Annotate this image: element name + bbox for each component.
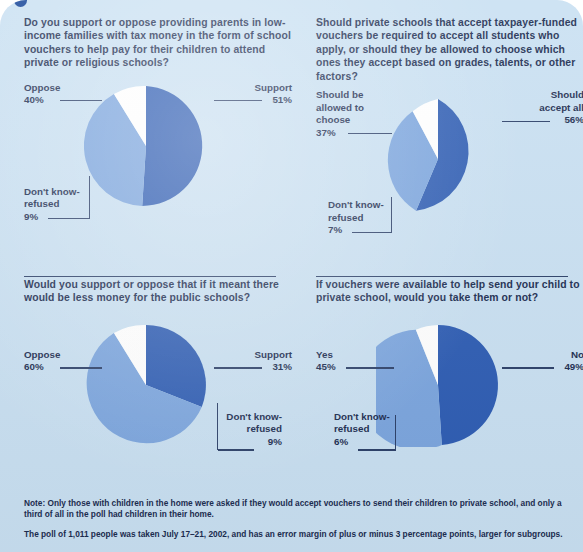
label-dont-know-value: 7% <box>328 224 384 237</box>
label-support-name: Support <box>254 82 292 95</box>
label-dont-know-name: Don't know- <box>328 199 384 212</box>
panel-divider-left <box>24 276 276 277</box>
leader-line-dont-know-h <box>358 449 396 450</box>
label-dont-know-value: 6% <box>334 436 390 449</box>
leader-line-dont-know-h <box>352 232 392 233</box>
voucher-poll-infographic: Do you support or oppose providing paren… <box>0 0 583 552</box>
chart-area: Oppose 40% Support 51% Don't know- refus… <box>24 76 292 246</box>
question-text: Do you support or oppose providing paren… <box>24 16 292 70</box>
pie-svg <box>84 84 208 208</box>
question-text: Should private schools that accept taxpa… <box>316 16 583 83</box>
label-oppose-value: 40% <box>24 94 60 107</box>
corner-dot-decoration <box>14 0 27 7</box>
label-no-name: No <box>564 349 583 362</box>
label-yes-value: 45% <box>316 361 336 374</box>
leader-line-dont-know-v <box>217 403 218 450</box>
panel-divider-right <box>316 276 568 277</box>
label-dont-know-value: 9% <box>226 436 282 449</box>
pie-chart-vouchers-support <box>84 84 208 208</box>
pie-slice-support <box>142 86 202 206</box>
pie-chart-accept-all-students <box>376 97 500 221</box>
label-oppose-name: Oppose <box>24 82 60 95</box>
panel-less-money-public-schools: Would you support or oppose that if it m… <box>24 278 292 461</box>
label-dont-know: Don't know- refused 6% <box>334 411 390 449</box>
footnote-poll-details: The poll of 1,011 people was taken July … <box>24 529 564 540</box>
question-text: Would you support or oppose that if it m… <box>24 278 292 305</box>
label-dont-know-name2: refused <box>226 423 282 436</box>
leader-line-dont-know-v <box>391 197 392 232</box>
label-allowed-choose-name2: allowed to <box>316 102 364 115</box>
label-dont-know: Don't know- refused 9% <box>226 411 282 449</box>
leader-line-dont-know-v <box>89 176 90 219</box>
pie-svg <box>84 323 208 447</box>
label-dont-know-name: Don't know- <box>334 411 390 424</box>
chart-area: Yes 45% No 49% Don't know- refused 6% <box>316 311 583 461</box>
leader-line-yes <box>346 367 394 368</box>
label-dont-know-name2: refused <box>24 198 80 211</box>
footnotes: Note: Only those with children in the ho… <box>24 498 564 550</box>
leader-line-support <box>214 100 262 101</box>
label-support: Support 31% <box>254 349 292 374</box>
label-yes: Yes 45% <box>316 349 336 374</box>
footnote-note: Note: Only those with children in the ho… <box>24 498 564 520</box>
label-oppose-value: 60% <box>24 361 60 374</box>
chart-area: Oppose 60% Support 31% Don't know- refus… <box>24 311 292 461</box>
chart-area: Should be allowed to choose 37% Should a… <box>316 89 583 259</box>
label-dont-know-name2: refused <box>334 423 390 436</box>
label-oppose-name: Oppose <box>24 349 60 362</box>
label-support-name: Support <box>254 349 292 362</box>
label-accept-all-name2: accept all <box>539 102 583 115</box>
label-dont-know-name: Don't know- <box>24 186 80 199</box>
leader-line-support <box>214 367 262 368</box>
leader-line-no <box>502 367 554 368</box>
leader-line-oppose <box>60 367 102 368</box>
panel-would-take-vouchers: If vouchers were available to help send … <box>316 278 583 461</box>
leader-line-dont-know-h <box>218 449 254 450</box>
label-dont-know-name: Don't know- <box>226 411 282 424</box>
label-no-value: 49% <box>564 361 583 374</box>
label-support: Support 51% <box>254 82 292 107</box>
question-text: If vouchers were available to help send … <box>316 278 583 305</box>
label-oppose: Oppose 40% <box>24 82 60 107</box>
label-dont-know-name2: refused <box>328 212 384 225</box>
leader-line-accept-all <box>502 121 550 122</box>
label-dont-know-value: 9% <box>24 211 80 224</box>
pie-chart-less-money <box>84 323 208 447</box>
label-oppose: Oppose 60% <box>24 349 60 374</box>
leader-line-oppose <box>60 100 102 101</box>
label-allowed-choose-name: Should be <box>316 89 364 102</box>
pie-slice-no <box>438 325 498 445</box>
pie-svg <box>376 97 500 221</box>
leader-line-allowed-choose <box>348 133 392 134</box>
panel-accept-all-students: Should private schools that accept taxpa… <box>316 16 583 259</box>
label-yes-name: Yes <box>316 349 336 362</box>
label-no: No 49% <box>564 349 583 374</box>
leader-line-dont-know-h <box>48 218 90 219</box>
panel-vouchers-support: Do you support or oppose providing paren… <box>24 16 292 246</box>
leader-line-dont-know-v <box>395 415 396 450</box>
label-allowed-choose-name3: choose <box>316 114 364 127</box>
label-accept-all-name: Should <box>539 89 583 102</box>
